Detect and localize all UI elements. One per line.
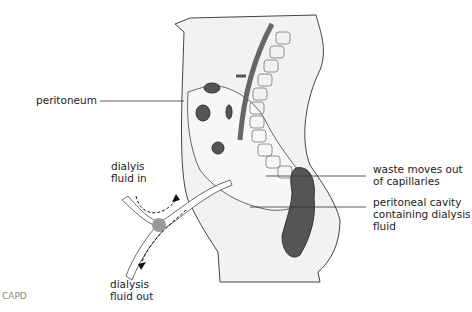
peritoneum-label: peritoneum — [36, 94, 97, 106]
fluid-in-label: dialyis fluid in — [111, 160, 147, 184]
catheter-valve — [152, 218, 166, 232]
capd-diagram: peritoneum dialyis fluid in dialysis flu… — [0, 0, 472, 312]
fluid-in-arrow — [136, 196, 176, 213]
cavity-label: peritoneal cavity containing dialysis fl… — [373, 196, 471, 232]
fluid-out-label: dialysis fluid out — [110, 278, 153, 302]
waste-label: waste moves out of capillaries — [373, 163, 463, 187]
anatomy-illustration — [0, 0, 472, 312]
figure-caption: CAPD — [2, 291, 27, 301]
